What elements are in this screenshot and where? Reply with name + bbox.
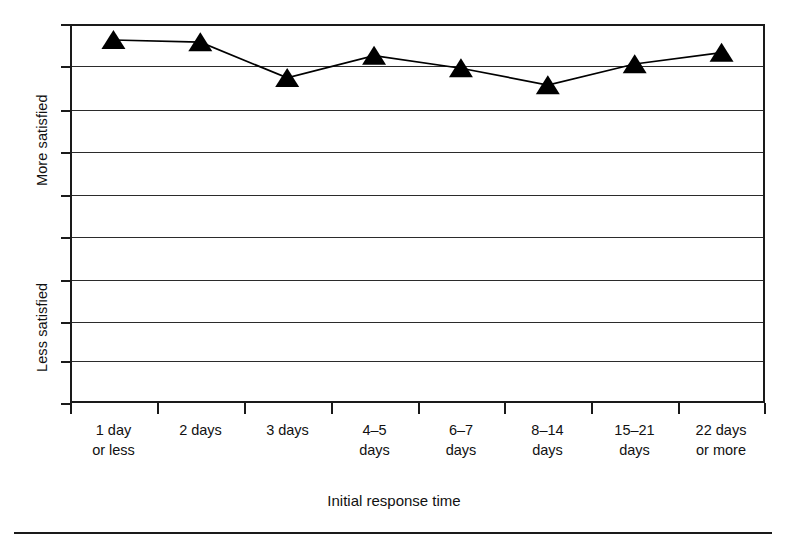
x-tick-label: 1 day or less: [70, 420, 157, 460]
y-axis-tick: [61, 66, 70, 68]
x-tick-label: 4–5 days: [331, 420, 418, 460]
gridline: [72, 195, 763, 196]
x-axis-tick: [504, 403, 506, 414]
x-tick-label-line1: 15–21: [591, 420, 678, 440]
x-tick-label: 2 days: [157, 420, 244, 440]
y-axis-tick: [61, 361, 70, 363]
x-tick-label: 15–21 days: [591, 420, 678, 460]
x-tick-label-line1: 22 days: [678, 420, 764, 440]
gridline: [72, 237, 763, 238]
y-axis-tick: [61, 237, 70, 239]
x-tick-label-line2: days: [504, 440, 591, 460]
x-tick-label-line1: 6–7: [418, 420, 504, 440]
x-axis-tick: [418, 403, 420, 414]
x-tick-label-line1: 3 days: [244, 420, 331, 440]
x-tick-label-line2: or less: [70, 440, 157, 460]
y-axis-tick: [61, 24, 70, 26]
x-tick-label-line1: 4–5: [331, 420, 418, 440]
x-tick-label-line2: or more: [678, 440, 764, 460]
x-axis-tick: [331, 403, 333, 414]
y-axis-tick: [61, 403, 70, 405]
x-axis-tick: [244, 403, 246, 414]
x-tick-label-line1: 2 days: [157, 420, 244, 440]
y-axis-caption-less-satisfied: Less satisfied: [34, 283, 50, 372]
chart-figure: More satisfied Less satisfied 1 day or l…: [0, 0, 788, 548]
x-axis-tick: [157, 403, 159, 414]
x-axis-tick: [764, 403, 766, 414]
x-tick-label-line2: days: [418, 440, 504, 460]
gridline: [72, 152, 763, 153]
x-axis-tick: [591, 403, 593, 414]
gridline: [72, 66, 763, 67]
x-tick-label: 6–7 days: [418, 420, 504, 460]
y-axis-caption-more-satisfied: More satisfied: [34, 94, 50, 186]
plot-area: [70, 24, 765, 403]
x-axis-title: Initial response time: [0, 492, 788, 509]
y-axis-tick: [61, 322, 70, 324]
y-axis-tick: [61, 280, 70, 282]
y-axis-tick: [61, 195, 70, 197]
x-tick-label: 3 days: [244, 420, 331, 440]
x-axis-tick: [70, 403, 72, 414]
gridline: [72, 280, 763, 281]
x-tick-label-line2: days: [591, 440, 678, 460]
x-tick-label-line1: 1 day: [70, 420, 157, 440]
x-axis-tick: [678, 403, 680, 414]
x-tick-label-line2: days: [331, 440, 418, 460]
gridline: [72, 361, 763, 362]
gridline: [72, 322, 763, 323]
x-tick-label-line1: 8–14: [504, 420, 591, 440]
y-axis-tick: [61, 152, 70, 154]
gridline: [72, 110, 763, 111]
footer-rule: [14, 532, 772, 534]
y-axis-tick: [61, 110, 70, 112]
x-tick-label: 22 days or more: [678, 420, 764, 460]
x-tick-label: 8–14 days: [504, 420, 591, 460]
